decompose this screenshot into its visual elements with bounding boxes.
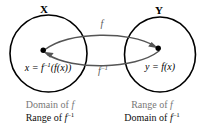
caption-left: Domain of f Range of f–1 [2,98,98,124]
set-label-x: X [22,4,66,15]
element-label-x-arg: (f(x)) [51,62,72,73]
element-label-x-eq: = [29,62,41,73]
caption-left-line-1: Domain of f [2,98,98,111]
element-label-y: y = f(x) [125,62,195,72]
arrow-label-f: f [92,19,112,29]
caption-left-line-1-var: f [71,99,74,110]
caption-left-line-2-exponent: –1 [67,111,74,119]
set-circle-y [125,17,196,92]
arrow-label-f-fn: f [101,18,104,29]
caption-left-line-2-prefix: Range of [26,112,65,123]
caption-right-line-1-prefix: Range of [131,99,170,110]
inverse-function-diagram: X Y x = f–1(f(x)) y = f(x) f f–1 Domain … [0,0,202,134]
caption-right-line-1-var: f [170,99,173,110]
caption-right-line-2: Domain of f–1 [104,111,200,124]
caption-right-line-1: Range of f [104,98,200,111]
element-label-x: x = f–1(f(x)) [8,63,88,73]
caption-right-line-2-prefix: Domain of [124,112,170,123]
caption-right-line-2-exponent: –1 [173,111,180,119]
arrow-forward-f [45,35,155,49]
element-dot-y [156,46,161,51]
caption-right: Range of f Domain of f–1 [104,98,200,124]
element-label-y-eq: = [149,61,161,72]
set-label-y: Y [137,5,181,16]
element-dot-x [41,48,46,53]
caption-left-line-1-prefix: Domain of [26,99,72,110]
element-label-y-arg: (x) [164,61,175,72]
arrow-label-f-inverse: f–1 [89,66,117,76]
arrow-label-f-inverse-exponent: –1 [101,64,108,72]
caption-left-line-2: Range of f–1 [2,111,98,124]
element-label-x-exponent: –1 [44,61,51,69]
